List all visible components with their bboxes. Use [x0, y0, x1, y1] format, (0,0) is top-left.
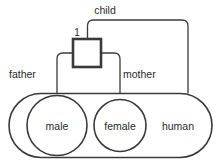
- male-set-label: male: [46, 120, 69, 132]
- cardinality-label: 1: [74, 27, 80, 38]
- relationship-box[interactable]: [73, 39, 101, 67]
- child-edge-line: [88, 20, 189, 94]
- female-set-label: female: [104, 120, 136, 132]
- child-edge-label: child: [94, 4, 116, 16]
- human-set-label: human: [162, 120, 194, 132]
- mother-edge-label: mother: [123, 68, 156, 80]
- mother-edge-line: [101, 53, 120, 94]
- er-diagram: 1 child father mother male female human: [0, 0, 224, 167]
- father-edge-line: [57, 53, 73, 94]
- diagram-canvas: 1 child father mother male female human: [0, 0, 224, 167]
- father-edge-label: father: [9, 68, 36, 80]
